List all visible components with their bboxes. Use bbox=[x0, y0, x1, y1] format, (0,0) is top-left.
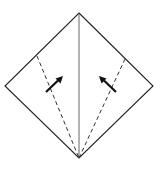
origami-diagram bbox=[0, 0, 160, 170]
